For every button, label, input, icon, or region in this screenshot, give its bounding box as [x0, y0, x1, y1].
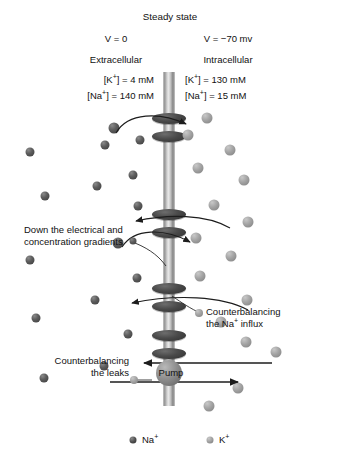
- diagram-canvas: Steady state V = 0 V = −70 mv Extracellu…: [0, 0, 340, 454]
- legend: Na+ K+: [0, 432, 340, 448]
- leader-na-influx: [172, 296, 198, 312]
- annotation-gradients-line2: concentration gradients: [24, 236, 123, 248]
- arrow-k-efflux-1: [136, 216, 230, 228]
- pump-label: Pump: [159, 367, 184, 378]
- annotation-na-influx-dot: [195, 309, 203, 317]
- annotation-leaks-dot: [130, 376, 138, 384]
- annotation-gradients: Down the electrical and concentration gr…: [24, 224, 123, 247]
- annotation-na-influx-line2: the Na+ influx: [206, 318, 280, 330]
- annotation-gradients-dot: [130, 238, 137, 245]
- legend-sodium-label: Na+: [142, 434, 158, 445]
- annotation-na-influx-line1: Counterbalancing: [206, 306, 280, 318]
- legend-sodium-dot: [130, 437, 137, 444]
- annotation-na-influx: Counterbalancing the Na+ influx: [206, 306, 280, 329]
- annotation-leaks-line1: Counterbalancing: [45, 355, 129, 367]
- annotation-leaks-line2: the leaks: [45, 367, 129, 379]
- leader-gradients: [135, 243, 166, 266]
- legend-potassium-dot: [207, 437, 214, 444]
- annotation-gradients-line1: Down the electrical and: [24, 224, 123, 236]
- annotation-leaks: Counterbalancing the leaks: [45, 355, 129, 378]
- legend-potassium-label: K+: [219, 434, 229, 445]
- arrow-na-influx-1: [116, 116, 186, 133]
